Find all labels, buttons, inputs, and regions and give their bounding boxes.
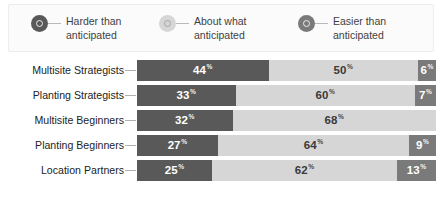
segment-value-number: 62 <box>295 165 308 177</box>
segment-value: 68% <box>325 115 344 127</box>
segment-value-percent-symbol: % <box>190 89 196 96</box>
target-circle-icon <box>298 15 315 32</box>
bar-segment[interactable]: 25% <box>137 160 212 181</box>
legend-item-easier[interactable]: Easier than anticipated <box>292 5 432 42</box>
segment-value-number: 6 <box>421 65 428 77</box>
chart-legend: Harder than anticipated About what antic… <box>8 4 434 52</box>
legend-label: Harder than anticipated <box>66 14 152 42</box>
segment-value-percent-symbol: % <box>207 64 213 71</box>
bar-segment[interactable]: 27% <box>137 135 218 156</box>
segment-value: 62% <box>295 165 314 177</box>
legend-stem-line <box>48 23 61 24</box>
legend-swatch-inner-ring <box>36 20 43 27</box>
target-circle-icon <box>31 15 48 32</box>
bar-segment[interactable]: 9% <box>409 135 436 156</box>
legend-swatch-inner-ring <box>164 20 171 27</box>
segment-value-number: 50 <box>334 65 347 77</box>
chart-row: Planting Beginners27%64%9% <box>0 135 442 160</box>
segment-value-percent-symbol: % <box>338 114 344 121</box>
bar-segment[interactable]: 60% <box>236 85 415 106</box>
legend-item-about-what[interactable]: About what anticipated <box>159 5 292 42</box>
bar-segment[interactable]: 6% <box>418 60 436 81</box>
chart-row: Multisite Beginners32%68% <box>0 110 442 135</box>
segment-value-percent-symbol: % <box>426 89 432 96</box>
row-category-label: Location Partners <box>41 160 124 181</box>
legend-item-harder[interactable]: Harder than anticipated <box>9 5 159 42</box>
segment-value-percent-symbol: % <box>420 164 426 171</box>
chart-row: Multisite Strategists44%50%6% <box>0 60 442 85</box>
segment-value-number: 27 <box>168 140 181 152</box>
segment-value-number: 68 <box>325 115 338 127</box>
row-connector-line <box>125 145 136 146</box>
segment-value: 6% <box>421 65 434 77</box>
bar-segment[interactable]: 68% <box>233 110 436 131</box>
bar-segment[interactable]: 33% <box>137 85 236 106</box>
stacked-bar: 27%64%9% <box>137 135 436 156</box>
legend-swatch-inner-ring <box>303 20 310 27</box>
segment-value-number: 13 <box>407 165 420 177</box>
segment-value-percent-symbol: % <box>308 164 314 171</box>
segment-value: 9% <box>416 140 429 152</box>
row-connector-line <box>125 170 136 171</box>
segment-value: 60% <box>316 90 335 102</box>
target-circle-icon <box>159 15 176 32</box>
row-connector-line <box>125 120 136 121</box>
segment-value-percent-symbol: % <box>428 64 434 71</box>
stacked-bar: 44%50%6% <box>137 60 436 81</box>
segment-value-number: 9 <box>416 140 423 152</box>
stacked-bar: 33%60%7% <box>137 85 436 106</box>
segment-value-percent-symbol: % <box>423 139 429 146</box>
row-category-label: Multisite Beginners <box>35 110 125 131</box>
segment-value-percent-symbol: % <box>181 139 187 146</box>
segment-value: 7% <box>419 90 432 102</box>
segment-value: 32% <box>175 115 194 127</box>
segment-value-number: 32 <box>175 115 188 127</box>
segment-value: 25% <box>165 165 184 177</box>
legend-label: About what anticipated <box>194 14 280 42</box>
row-category-label: Planting Strategists <box>33 85 124 106</box>
bar-segment[interactable]: 13% <box>397 160 436 181</box>
row-category-label: Multisite Strategists <box>32 60 124 81</box>
legend-stem-line <box>176 23 189 24</box>
segment-value-number: 7 <box>419 90 426 102</box>
segment-value-number: 60 <box>316 90 329 102</box>
bar-segment[interactable]: 50% <box>269 60 419 81</box>
row-category-label: Planting Beginners <box>35 135 124 156</box>
stacked-bar-chart: Harder than anticipated About what antic… <box>0 0 442 204</box>
bar-segment[interactable]: 32% <box>137 110 233 131</box>
segment-value: 13% <box>407 165 426 177</box>
stacked-bar: 32%68% <box>137 110 436 131</box>
segment-value-number: 64 <box>304 140 317 152</box>
chart-row: Location Partners25%62%13% <box>0 160 442 185</box>
segment-value-percent-symbol: % <box>178 164 184 171</box>
bar-segment[interactable]: 64% <box>218 135 409 156</box>
bar-segment[interactable]: 7% <box>415 85 436 106</box>
segment-value-percent-symbol: % <box>347 64 353 71</box>
segment-value: 33% <box>177 90 196 102</box>
segment-value: 44% <box>193 65 212 77</box>
bar-segment[interactable]: 44% <box>137 60 269 81</box>
segment-value-percent-symbol: % <box>329 89 335 96</box>
segment-value-number: 25 <box>165 165 178 177</box>
legend-label: Easier than anticipated <box>333 14 419 42</box>
row-connector-line <box>125 95 136 96</box>
chart-row: Planting Strategists33%60%7% <box>0 85 442 110</box>
segment-value: 64% <box>304 140 323 152</box>
bar-segment[interactable]: 62% <box>212 160 397 181</box>
segment-value-number: 33 <box>177 90 190 102</box>
segment-value-percent-symbol: % <box>189 114 195 121</box>
stacked-bar: 25%62%13% <box>137 160 436 181</box>
legend-stem-line <box>315 23 328 24</box>
segment-value-percent-symbol: % <box>317 139 323 146</box>
segment-value: 50% <box>334 65 353 77</box>
row-connector-line <box>125 70 136 71</box>
segment-value: 27% <box>168 140 187 152</box>
chart-rows: Multisite Strategists44%50%6%Planting St… <box>0 60 442 185</box>
segment-value-number: 44 <box>193 65 206 77</box>
